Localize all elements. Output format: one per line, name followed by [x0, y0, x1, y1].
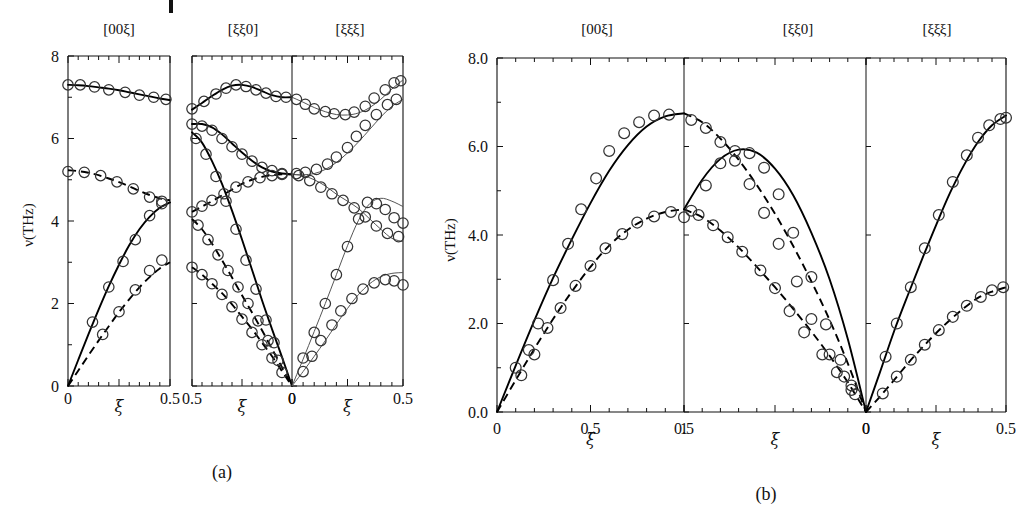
data-point[interactable] — [97, 329, 107, 339]
dispersion-curve[interactable] — [68, 202, 170, 386]
data-point[interactable] — [791, 276, 802, 287]
data-point[interactable] — [737, 246, 748, 257]
data-point[interactable] — [666, 207, 677, 218]
data-point[interactable] — [114, 307, 124, 317]
dispersion-curve[interactable] — [292, 174, 403, 241]
dispersion-curve[interactable] — [497, 113, 684, 412]
data-point[interactable] — [231, 224, 241, 234]
data-point[interactable] — [649, 110, 660, 121]
data-point[interactable] — [591, 173, 602, 184]
data-point[interactable] — [237, 149, 247, 159]
data-point[interactable] — [389, 78, 399, 88]
data-point[interactable] — [223, 265, 233, 275]
data-point[interactable] — [353, 214, 363, 224]
data-point[interactable] — [331, 152, 341, 162]
data-point[interactable] — [371, 221, 381, 231]
x-tick-label: 0.5 — [674, 420, 694, 437]
data-point[interactable] — [369, 93, 379, 103]
data-point[interactable] — [336, 306, 346, 316]
x-tick-label: 0 — [288, 390, 296, 407]
data-point[interactable] — [987, 285, 998, 296]
data-point[interactable] — [193, 220, 203, 230]
data-point[interactable] — [744, 179, 755, 190]
dispersion-curve[interactable] — [866, 116, 1006, 412]
dispersion-curve[interactable] — [497, 209, 684, 412]
y-tick-label: 0 — [51, 378, 59, 395]
y-tick-label: 0.0 — [468, 404, 488, 421]
data-point[interactable] — [773, 189, 784, 200]
data-point[interactable] — [773, 238, 784, 249]
direction-label: [ξξ0] — [783, 21, 813, 37]
y-tick-label: 6.0 — [468, 138, 488, 155]
data-point[interactable] — [604, 146, 615, 157]
data-point[interactable] — [305, 175, 315, 185]
scan-artifact-mark[interactable] — [169, 0, 173, 13]
data-point[interactable] — [221, 196, 231, 206]
data-point[interactable] — [231, 182, 241, 192]
data-point[interactable] — [380, 85, 390, 95]
dispersion-curve[interactable] — [684, 149, 866, 412]
data-point[interactable] — [157, 196, 167, 206]
data-point[interactable] — [371, 109, 381, 119]
y-axis-label: ν(THz) — [442, 218, 459, 261]
data-point[interactable] — [144, 192, 154, 202]
x-axis-label: ξ — [771, 430, 781, 449]
data-point[interactable] — [197, 121, 207, 131]
x-tick-label: 0.5 — [393, 390, 413, 407]
y-tick-label: 2.0 — [468, 315, 488, 332]
y-tick-label: 8.0 — [468, 50, 488, 67]
x-axis-label: ξ — [238, 397, 248, 416]
panel-caption: (a) — [212, 462, 232, 483]
data-point[interactable] — [821, 319, 832, 330]
data-point[interactable] — [251, 284, 261, 294]
data-point[interactable] — [396, 76, 406, 86]
dispersion-curve[interactable] — [192, 219, 292, 386]
direction-label: [ξξξ] — [923, 21, 952, 37]
data-point[interactable] — [130, 285, 140, 295]
data-point[interactable] — [759, 207, 770, 218]
data-point[interactable] — [382, 228, 392, 238]
y-tick-label: 4.0 — [468, 227, 488, 244]
data-point[interactable] — [207, 195, 217, 205]
data-point[interactable] — [112, 177, 122, 187]
data-point[interactable] — [157, 255, 167, 265]
data-point[interactable] — [576, 204, 587, 215]
y-tick-label: 8 — [51, 48, 59, 65]
data-point[interactable] — [784, 306, 795, 317]
phonon-dispersion-figure: 0246800.5ξ[00ξ]0.50ξ[ξξ0]00.5ξ[ξξξ]ν(THz… — [0, 0, 1033, 513]
data-point[interactable] — [144, 265, 154, 275]
data-point[interactable] — [634, 117, 645, 128]
data-point[interactable] — [835, 354, 846, 365]
y-tick-label: 6 — [51, 130, 59, 147]
x-tick-label: 0 — [64, 390, 72, 407]
x-axis-label: ξ — [115, 397, 125, 416]
data-point[interactable] — [360, 120, 370, 130]
data-point[interactable] — [806, 314, 817, 325]
dispersion-curve[interactable] — [68, 262, 170, 386]
data-point[interactable] — [617, 229, 628, 240]
direction-label: [ξξξ] — [336, 21, 365, 37]
data-point[interactable] — [919, 339, 930, 350]
data-point[interactable] — [619, 128, 630, 139]
dispersion-curve[interactable] — [292, 99, 403, 175]
data-point[interactable] — [316, 335, 326, 345]
data-point[interactable] — [197, 269, 207, 279]
data-point[interactable] — [360, 212, 370, 222]
data-point[interactable] — [351, 131, 361, 141]
data-point[interactable] — [380, 204, 390, 214]
data-point[interactable] — [817, 349, 828, 360]
data-point[interactable] — [342, 142, 352, 152]
data-point[interactable] — [700, 180, 711, 191]
data-point[interactable] — [799, 327, 810, 338]
dispersion-curve[interactable] — [292, 273, 403, 386]
data-point[interactable] — [947, 311, 958, 322]
data-point[interactable] — [243, 177, 253, 187]
figure-canvas: 0246800.5ξ[00ξ]0.50ξ[ξξ0]00.5ξ[ξξξ]ν(THz… — [0, 0, 1033, 513]
x-tick-label: 0.5 — [182, 390, 202, 407]
data-point[interactable] — [197, 201, 207, 211]
data-point[interactable] — [788, 227, 799, 238]
data-point[interactable] — [759, 162, 770, 173]
data-point[interactable] — [203, 234, 213, 244]
data-point[interactable] — [207, 279, 217, 289]
data-point[interactable] — [877, 388, 888, 399]
